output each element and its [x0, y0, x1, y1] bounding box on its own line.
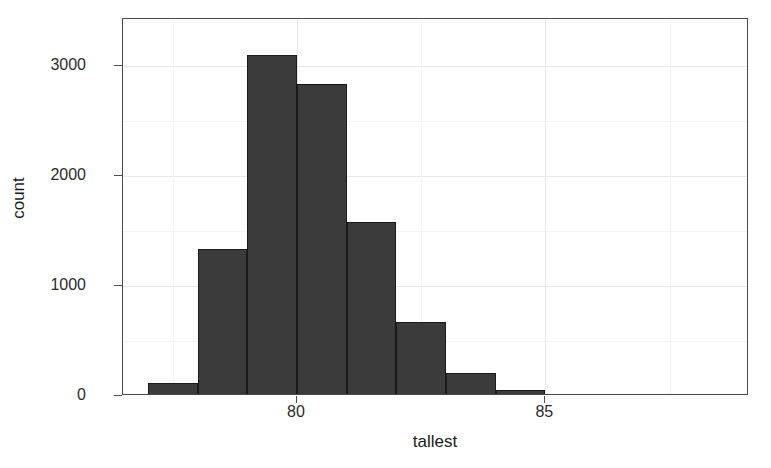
y-tick-label: 3000 [30, 57, 86, 73]
y-tick-mark [114, 65, 122, 66]
histogram-figure: count 0100020003000 tallest 8085 [0, 0, 771, 468]
histogram-bar [247, 55, 297, 395]
histogram-bar [396, 322, 446, 395]
gridline-horizontal-major [123, 66, 747, 67]
y-tick-mark [114, 175, 122, 176]
histogram-bar [297, 84, 347, 395]
y-tick-label: 2000 [30, 167, 86, 183]
y-tick-label: 0 [30, 387, 86, 403]
x-axis-title-label: tallest [413, 432, 457, 451]
x-axis-title: tallest [122, 432, 748, 452]
histogram-bar [496, 390, 546, 395]
gridline-horizontal-major [123, 176, 747, 177]
x-tick-label: 80 [287, 404, 305, 420]
gridline-horizontal-minor [123, 121, 747, 122]
histogram-bar [545, 394, 595, 395]
y-tick-label: 1000 [30, 277, 86, 293]
gridline-horizontal-minor [123, 231, 747, 232]
gridline-vertical-minor [173, 19, 174, 394]
histogram-bar [198, 249, 248, 395]
gridline-vertical-major [545, 19, 546, 394]
x-tick-mark [296, 396, 297, 403]
x-tick-mark [544, 396, 545, 403]
histogram-baseline [123, 394, 748, 395]
gridline-vertical-minor [670, 19, 671, 394]
histogram-bar [446, 373, 496, 395]
plot-panel [122, 18, 748, 395]
y-axis-title-label: count [9, 177, 29, 219]
histogram-bar [148, 383, 198, 395]
x-tick-label: 85 [535, 404, 553, 420]
y-axis-title: count [6, 0, 32, 395]
histogram-bar [347, 222, 397, 395]
y-axis-ticks: 0100020003000 [30, 0, 86, 468]
y-tick-mark [114, 395, 122, 396]
y-tick-mark [114, 285, 122, 286]
